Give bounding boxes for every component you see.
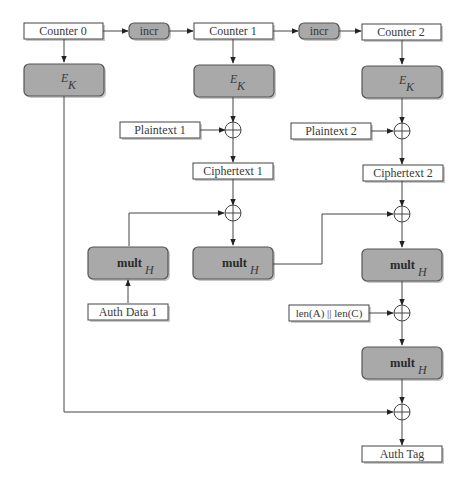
ciphertext-2-box: Ciphertext 2 bbox=[363, 165, 445, 183]
mult-d-sub: H bbox=[417, 363, 428, 377]
encrypt-2-sub: K bbox=[405, 80, 415, 94]
counter-1-label: Counter 1 bbox=[209, 24, 257, 38]
ciphertext-1-label: Ciphertext 1 bbox=[203, 164, 263, 178]
incr-2-box: incr bbox=[299, 23, 341, 41]
mult-a-main: mult bbox=[117, 256, 143, 270]
mult-box-b: mult H bbox=[193, 247, 275, 281]
ciphertext-2-label: Ciphertext 2 bbox=[373, 166, 433, 180]
counter-0-label: Counter 0 bbox=[39, 24, 87, 38]
plaintext-1-label: Plaintext 1 bbox=[134, 123, 186, 137]
incr-2-label: incr bbox=[310, 24, 329, 38]
xor-icon bbox=[394, 305, 410, 321]
mult-b-main: mult bbox=[222, 256, 248, 270]
auth-tag-label: Auth Tag bbox=[380, 447, 425, 461]
plaintext-2-box: Plaintext 2 bbox=[291, 123, 373, 141]
mult-a-sub: H bbox=[144, 263, 155, 277]
mult-box-d: mult H bbox=[362, 347, 444, 381]
auth-data-1-box: Auth Data 1 bbox=[88, 304, 170, 322]
mult-box-a: mult H bbox=[88, 247, 170, 281]
ciphertext-1-box: Ciphertext 1 bbox=[193, 163, 275, 181]
xor-icon bbox=[225, 205, 241, 221]
mult-b-sub: H bbox=[249, 263, 260, 277]
mult-c-main: mult bbox=[390, 258, 416, 272]
mult-d-main: mult bbox=[390, 356, 416, 370]
incr-1-label: incr bbox=[140, 24, 159, 38]
xor-icon bbox=[394, 206, 410, 222]
encrypt-box-2: E K bbox=[362, 66, 444, 100]
counter-0-box: Counter 0 bbox=[24, 23, 105, 41]
auth-data-1-label: Auth Data 1 bbox=[99, 305, 158, 319]
counter-1-box: Counter 1 bbox=[194, 23, 275, 41]
encrypt-1-sub: K bbox=[236, 79, 246, 93]
encrypt-box-0: E K bbox=[24, 64, 106, 98]
auth-tag-box: Auth Tag bbox=[362, 446, 444, 464]
xor-icon bbox=[394, 404, 410, 420]
length-block-label: len(A) || len(C) bbox=[296, 307, 363, 320]
gcm-diagram: Counter 0 incr Counter 1 incr Counter 2 … bbox=[0, 0, 466, 482]
plaintext-1-box: Plaintext 1 bbox=[120, 122, 202, 140]
encrypt-0-sub: K bbox=[67, 78, 77, 92]
length-block-box: len(A) || len(C) bbox=[289, 305, 371, 323]
encrypt-box-1: E K bbox=[194, 65, 276, 99]
incr-1-box: incr bbox=[129, 23, 171, 41]
counter-2-box: Counter 2 bbox=[362, 24, 443, 42]
xor-icon bbox=[225, 122, 241, 138]
counter-2-label: Counter 2 bbox=[377, 25, 425, 39]
plaintext-2-label: Plaintext 2 bbox=[305, 124, 357, 138]
mult-box-c: mult H bbox=[362, 249, 444, 283]
xor-icon bbox=[394, 123, 410, 139]
mult-c-sub: H bbox=[417, 265, 428, 279]
